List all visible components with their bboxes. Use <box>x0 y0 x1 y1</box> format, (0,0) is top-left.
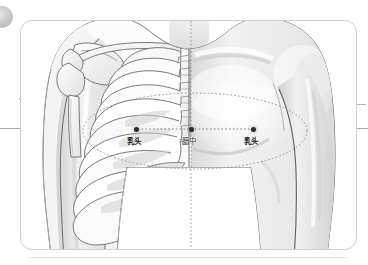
point-label-danzhong: 膻中 <box>182 138 197 146</box>
point-label-right-nipple: 乳头 <box>244 138 259 146</box>
point-dot-danzhong[interactable] <box>189 127 194 132</box>
torso-illustration <box>21 21 356 249</box>
point-label-left-nipple: 乳头 <box>127 138 142 146</box>
point-dot-right-nipple[interactable] <box>251 127 256 132</box>
skin-surface-half <box>187 21 356 249</box>
skeletal-cutaway-half <box>21 21 193 249</box>
bullet-marker-icon <box>0 6 13 28</box>
point-dot-left-nipple[interactable] <box>134 127 139 132</box>
figure-card: 乳头 膻中 乳头 <box>20 20 357 250</box>
abdominal-organs <box>130 187 193 249</box>
bottom-rule <box>28 257 348 258</box>
illustration-canvas: 乳头 膻中 乳头 <box>0 0 368 265</box>
